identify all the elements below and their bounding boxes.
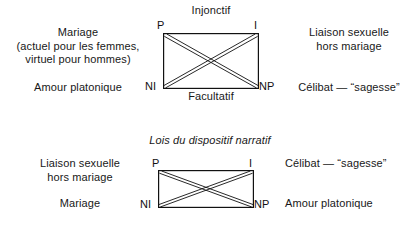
diagram-2-diagonal-a2 xyxy=(162,171,254,205)
diagram-2-vertex-ni: NI xyxy=(140,198,151,210)
diagram-1-top-left-annotation: Mariage (actuel pour les femmes, virtuel… xyxy=(4,26,152,67)
diagram-1-diagonal-b1 xyxy=(165,36,257,88)
diagram-1-top-right-annotation: Liaison sexuelle hors mariage xyxy=(286,26,412,53)
diagram-1-top-caption: Injonctif xyxy=(162,4,260,18)
diagram-1-bottom-right-annotation: Célibat — “sagesse” xyxy=(286,81,412,95)
diagram-1-diagonal-b2 xyxy=(164,34,255,86)
diagram-2-square-graphic xyxy=(158,170,254,208)
diagram-2-top-caption: Lois du dispositif narratif xyxy=(120,134,300,148)
diagram-1-diagonal-a1 xyxy=(164,36,256,88)
diagram-2-diagonal-b2 xyxy=(159,171,251,205)
diagram-2-vertex-p: P xyxy=(152,157,159,169)
diagram-1-square-graphic xyxy=(163,33,259,89)
diagram-1-square-outline xyxy=(164,34,259,89)
diagram-1-vertex-np: NP xyxy=(259,80,274,92)
diagram-1-vertex-ni: NI xyxy=(145,80,156,92)
diagram-1-diagonal-a2 xyxy=(167,34,258,86)
diagram-2-vertex-i: I xyxy=(249,157,252,169)
diagram-2-bottom-left-annotation: Mariage xyxy=(14,197,146,211)
diagram-page: Injonctif Mariage (actuel pour les femme… xyxy=(0,0,414,227)
diagram-2-bottom-right-annotation: Amour platonique xyxy=(285,197,413,211)
diagram-1-bottom-left-annotation: Amour platonique xyxy=(10,81,146,95)
diagram-2-top-right-annotation: Célibat — “sagesse” xyxy=(285,157,413,171)
diagram-1-bottom-caption: Facultatif xyxy=(162,90,260,104)
diagram-1-vertex-p: P xyxy=(157,19,164,31)
diagram-2-top-left-annotation: Liaison sexuelle hors mariage xyxy=(14,157,146,184)
diagram-2-square-outline xyxy=(159,171,254,208)
diagram-1-vertex-i: I xyxy=(254,19,257,31)
diagram-2-vertex-np: NP xyxy=(254,198,269,210)
